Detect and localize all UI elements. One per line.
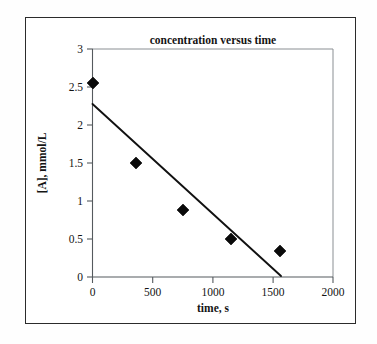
y-tick-label-3: 3 bbox=[77, 43, 83, 55]
x-tick-label-1000: 1000 bbox=[201, 286, 224, 298]
y-tick-label-2: 2 bbox=[77, 119, 83, 131]
y-axis-tick-labels: 0 0.5 1 1.5 2 2.5 3 bbox=[69, 43, 84, 283]
linear-fit-line bbox=[93, 104, 282, 276]
y-axis-title: [A], mmol/L bbox=[36, 132, 48, 193]
x-tick-label-2000: 2000 bbox=[322, 286, 345, 298]
figure-root: concentration versus time 0 0.5 1 1.5 2 … bbox=[0, 0, 377, 344]
chart-title: concentration versus time bbox=[150, 34, 276, 46]
x-tick-label-0: 0 bbox=[90, 286, 96, 298]
x-tick-label-1500: 1500 bbox=[262, 286, 285, 298]
data-series-markers bbox=[87, 77, 286, 257]
y-tick-label-0-5: 0.5 bbox=[69, 233, 84, 245]
y-tick-label-0: 0 bbox=[77, 271, 83, 283]
y-tick-label-1: 1 bbox=[77, 195, 83, 207]
data-point-t800 bbox=[177, 204, 189, 216]
data-point-t400 bbox=[130, 157, 142, 169]
y-tick-label-1-5: 1.5 bbox=[69, 157, 84, 169]
x-axis-ticks bbox=[93, 277, 334, 283]
y-tick-label-2-5: 2.5 bbox=[69, 81, 84, 93]
x-axis-tick-labels: 0 500 1000 1500 2000 bbox=[90, 286, 345, 298]
x-axis-title: time, s bbox=[197, 302, 229, 314]
concentration-versus-time-chart: concentration versus time 0 0.5 1 1.5 2 … bbox=[0, 0, 377, 344]
data-point-t1600 bbox=[274, 245, 286, 257]
x-tick-label-500: 500 bbox=[144, 286, 162, 298]
